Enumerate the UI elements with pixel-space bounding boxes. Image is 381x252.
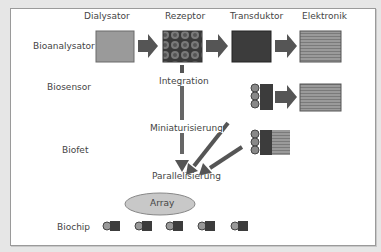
integration-connector: [180, 65, 184, 73]
biochip-unit: [166, 221, 183, 231]
step-miniaturisierung: Miniaturisierung: [150, 123, 223, 133]
arrow-right-icon: [275, 34, 297, 58]
step-parallelisierung: Parallelisierung: [152, 171, 221, 181]
dialysator-box: [96, 31, 134, 62]
biofet-transduktor: [260, 130, 272, 155]
biochip-unit: [198, 221, 215, 231]
biochip-unit: [231, 221, 248, 231]
vertical-flow-line: [180, 84, 184, 120]
arrow-right-icon: [138, 34, 158, 58]
biosensor-transduktor: [260, 84, 273, 110]
step-integration: Integration: [159, 76, 209, 86]
vertical-flow-line: [180, 132, 184, 154]
arrow-right-icon: [206, 34, 228, 58]
biosensor-elektronik: [300, 84, 341, 111]
arrow-right-icon: [275, 85, 297, 109]
array-label: Array: [150, 198, 174, 208]
transduktor-box: [232, 31, 271, 62]
biochip-unit: [135, 221, 152, 231]
biofet-elektronik: [272, 130, 290, 155]
biochip-unit: [103, 221, 120, 231]
rezeptor-box: [163, 31, 202, 62]
elektronik-box: [300, 31, 341, 62]
